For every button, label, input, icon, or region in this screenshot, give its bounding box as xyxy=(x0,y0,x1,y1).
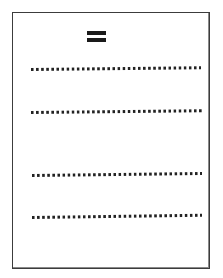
dotted-text-line-4 xyxy=(32,214,202,219)
page-sheet xyxy=(13,13,209,268)
equals-sign-icon xyxy=(87,30,106,43)
dotted-text-line-1 xyxy=(31,66,201,71)
dotted-text-line-3 xyxy=(32,172,202,177)
page-border-frame xyxy=(12,12,210,269)
equals-sign-bar-bottom xyxy=(87,38,106,42)
dotted-text-line-2 xyxy=(31,109,202,114)
document-page-root xyxy=(0,0,223,278)
equals-sign-bar-top xyxy=(87,31,106,35)
